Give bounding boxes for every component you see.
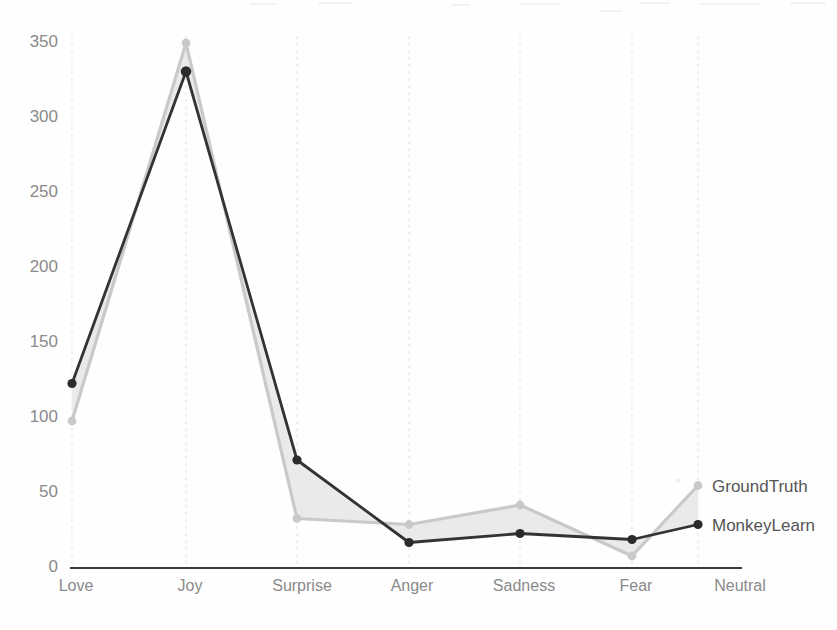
line-chart: 350 300 250 200 150 100 50 0 [0, 0, 837, 630]
ground-truth-point-neutral [694, 481, 703, 490]
monkey-learn-point-surprise [292, 455, 301, 464]
x-tick-fear: Fear [620, 577, 654, 594]
chart-container: 350 300 250 200 150 100 50 0 [0, 0, 837, 630]
monkey-learn-point-neutral [693, 520, 702, 529]
ground-truth-point-surprise [293, 514, 302, 523]
ground-truth-point-fear [628, 552, 637, 561]
monkey-learn-point-sadness [515, 529, 524, 538]
x-tick-anger: Anger [391, 577, 434, 594]
y-tick-300: 300 [30, 107, 58, 126]
monkey-learn-point-anger [404, 538, 413, 547]
x-tick-surprise: Surprise [272, 577, 332, 594]
x-tick-neutral: Neutral [714, 577, 766, 594]
x-tick-joy: Joy [178, 577, 203, 594]
monkey-learn-point-fear [627, 535, 636, 544]
y-tick-150: 150 [30, 332, 58, 351]
monkey-learn-point-joy [181, 66, 191, 76]
y-tick-350: 350 [30, 32, 58, 51]
ground-truth-point-love [68, 417, 77, 426]
y-tick-200: 200 [30, 257, 58, 276]
y-tick-100: 100 [30, 407, 58, 426]
ground-truth-point-sadness [516, 501, 525, 510]
ground-truth-point-anger [405, 520, 414, 529]
x-tick-love: Love [59, 577, 94, 594]
x-tick-sadness: Sadness [493, 577, 555, 594]
ground-truth-point-joy [182, 39, 191, 48]
y-tick-50: 50 [39, 482, 58, 501]
legend-label-ground-truth: GroundTruth [712, 477, 808, 496]
y-tick-250: 250 [30, 182, 58, 201]
y-tick-0: 0 [49, 557, 58, 576]
monkey-learn-point-love [67, 379, 76, 388]
legend-label-monkey-learn: MonkeyLearn [712, 516, 815, 535]
